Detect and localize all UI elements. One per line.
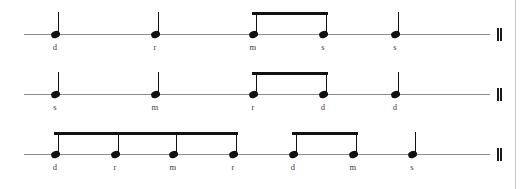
solfege-syllable: m [345, 162, 361, 172]
solfege-syllable: d [285, 162, 301, 172]
music-sheet: drmsssmrdddrmrdms [0, 0, 528, 189]
note-stem [296, 132, 297, 154]
music-system: drmrdms [0, 0, 528, 60]
staff-line [24, 154, 490, 155]
note-stem [326, 72, 327, 94]
note-stem [398, 72, 399, 94]
note-stem [415, 132, 416, 154]
note-stem [176, 132, 177, 154]
solfege-syllable: r [225, 162, 241, 172]
note-beam [54, 132, 238, 135]
solfege-syllable: r [107, 162, 123, 172]
solfege-syllable: d [387, 102, 403, 112]
note-stem [58, 132, 59, 154]
note-stem [236, 132, 237, 154]
note-stem [158, 72, 159, 94]
solfege-syllable: m [165, 162, 181, 172]
solfege-syllable: d [315, 102, 331, 112]
solfege-syllable: s [47, 102, 63, 112]
note-stem [118, 132, 119, 154]
solfege-syllable: s [404, 162, 420, 172]
note-beam [292, 132, 358, 135]
note-beam [252, 72, 328, 75]
solfege-syllable: d [47, 162, 63, 172]
solfege-syllable: m [147, 102, 163, 112]
note-stem [356, 132, 357, 154]
note-stem [58, 72, 59, 94]
note-stem [256, 72, 257, 94]
solfege-syllable: r [245, 102, 261, 112]
